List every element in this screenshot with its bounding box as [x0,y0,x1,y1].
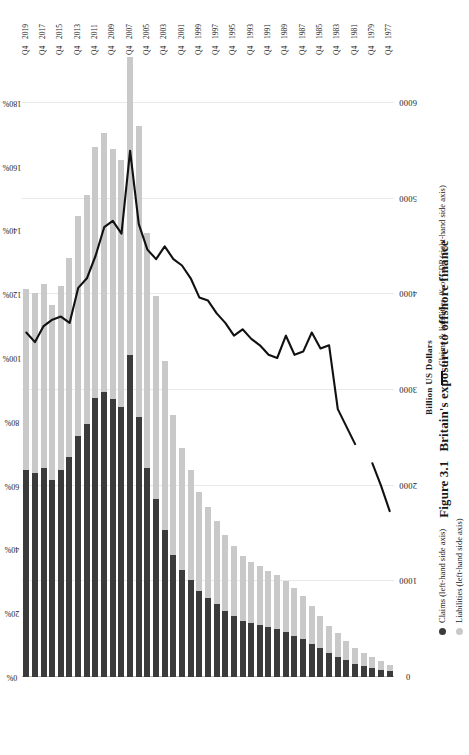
category-quarter-label: Q4 [22,39,30,55]
category-quarter-label: Q4 [299,39,307,55]
secondary-axis-tick-label: 100% [3,354,22,363]
category-quarter-label: Q4 [212,39,220,55]
secondary-axis-tick-label: 160% [3,162,22,171]
category-tick-label: Q41977 [385,24,393,55]
category-quarter-label: Q4 [195,39,203,55]
secondary-axis-tick-label: 140% [3,226,22,235]
category-quarter-label: Q4 [39,39,47,55]
category-axis-labels: Q41977Q41979Q41981Q41983Q41985Q41987Q419… [22,0,394,55]
category-year-label: 1979 [368,24,376,39]
category-tick-label: Q41981 [351,24,359,55]
category-tick-label: Q42009 [108,24,116,55]
category-year-label: 1993 [247,24,255,39]
category-year-label: 1991 [264,24,272,39]
category-year-label: 1985 [316,24,324,39]
rotated-figure-wrapper: 0%20%40%60%80%100%120%140%160%180% 01000… [0,0,469,755]
category-tick-label: Q41979 [368,24,376,55]
category-quarter-label: Q4 [264,39,272,55]
category-year-label: 2011 [91,24,99,39]
category-quarter-label: Q4 [368,39,376,55]
category-quarter-label: Q4 [160,39,168,55]
category-quarter-label: Q4 [143,39,151,55]
primary-axis-tick-label: 6000 [399,98,417,108]
category-tick-label: Q41991 [264,24,272,55]
category-quarter-label: Q4 [351,39,359,55]
secondary-axis-tick-label: 20% [5,609,20,618]
chart-figure: 0%20%40%60%80%100%120%140%160%180% 01000… [0,0,469,755]
category-tick-label: Q42003 [160,24,168,55]
category-tick-label: Q42005 [143,24,151,55]
category-tick-label: Q41985 [316,24,324,55]
category-year-label: 2013 [74,24,82,39]
category-quarter-label: Q4 [281,39,289,55]
category-tick-label: Q41993 [247,24,255,55]
ratio-line-path-early [372,463,389,511]
category-quarter-label: Q4 [247,39,255,55]
category-quarter-label: Q4 [126,39,134,55]
figure-caption-text: Britain's exposure to offshore finance [436,240,451,451]
category-year-label: 2017 [39,24,47,39]
category-year-label: 1997 [212,24,220,39]
category-year-label: 1981 [351,24,359,39]
category-quarter-label: Q4 [316,39,324,55]
secondary-axis-tick-label: 180% [3,98,22,107]
category-year-label: 2003 [160,24,168,39]
primary-axis-tick-label: 5000 [399,194,417,204]
secondary-axis-tick-label: 0% [7,673,18,682]
plot-area [22,55,394,677]
category-year-label: 1999 [195,24,203,39]
category-quarter-label: Q4 [333,39,341,55]
category-year-label: 2007 [126,24,134,39]
figure-number: Figure 3.1 [436,461,451,518]
category-year-label: 2001 [178,24,186,39]
primary-axis-tick-label: 2000 [399,481,417,491]
secondary-axis-labels: 0%20%40%60%80%100%120%140%160%180% [0,55,22,677]
category-quarter-label: Q4 [178,39,186,55]
category-year-label: 1983 [333,24,341,39]
category-year-label: 2009 [108,24,116,39]
primary-axis-tick-label: 1000 [399,576,417,586]
ratio-line-series [22,55,394,677]
category-tick-label: Q41989 [281,24,289,55]
category-tick-label: Q42013 [74,24,82,55]
category-tick-label: Q42001 [178,24,186,55]
primary-axis-tick-label: 3000 [399,385,417,395]
secondary-axis-tick-label: 40% [5,545,20,554]
category-year-label: 2019 [22,24,30,39]
category-tick-label: Q41997 [212,24,220,55]
category-tick-label: Q42011 [91,24,99,55]
ratio-line-path [26,151,355,444]
category-quarter-label: Q4 [74,39,82,55]
category-quarter-label: Q4 [91,39,99,55]
category-tick-label: Q42019 [22,24,30,55]
category-tick-label: Q41995 [229,24,237,55]
category-year-label: 2015 [56,24,64,39]
secondary-axis-tick-label: 60% [5,481,20,490]
category-quarter-label: Q4 [108,39,116,55]
category-year-label: 1989 [281,24,289,39]
category-tick-label: Q41999 [195,24,203,55]
category-quarter-label: Q4 [385,39,393,55]
category-tick-label: Q41983 [333,24,341,55]
category-tick-label: Q42017 [39,24,47,55]
category-year-label: 1987 [299,24,307,39]
category-quarter-label: Q4 [229,39,237,55]
primary-axis-tick-label: 4000 [399,289,417,299]
category-tick-label: Q41987 [299,24,307,55]
category-tick-label: Q42015 [56,24,64,55]
secondary-axis-tick-label: 80% [5,417,20,426]
category-year-label: 2005 [143,24,151,39]
category-tick-label: Q42007 [126,24,134,55]
category-quarter-label: Q4 [56,39,64,55]
category-year-label: 1995 [229,24,237,39]
primary-axis-tick-label: 0 [406,672,410,682]
figure-caption: Figure 3.1Britain's exposure to offshore… [427,9,461,749]
category-year-label: 1977 [385,24,393,39]
primary-axis-labels: 0100020003000400050006000 [394,55,424,677]
secondary-axis-tick-label: 120% [3,290,22,299]
